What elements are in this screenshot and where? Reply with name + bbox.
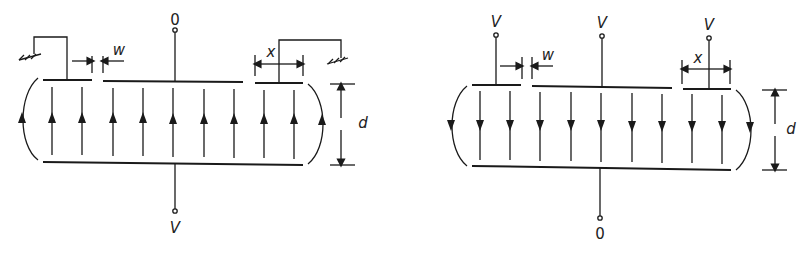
left-fringe-field-left	[23, 78, 38, 160]
right-separation-d-label: d	[786, 122, 796, 137]
right-bottom-terminal-label: 0	[595, 227, 605, 242]
left-guard-x-label: x	[267, 45, 276, 60]
left-top-terminal-label: 0	[170, 13, 180, 28]
right-gap-w-label: w	[542, 48, 554, 63]
ground-icon	[327, 57, 348, 64]
right-diagram	[447, 33, 787, 220]
right-fringe-field-left	[452, 86, 467, 166]
left-bottom-electrode	[43, 162, 303, 165]
left-diagram	[18, 28, 355, 213]
left-top-measuring-electrode	[103, 81, 243, 82]
right-guard-x-label: x	[694, 51, 703, 66]
right-terminal-left-label: V	[491, 15, 501, 30]
left-separation-d-label: d	[358, 116, 368, 131]
left-bottom-terminal-label: V	[170, 221, 180, 236]
right-terminal-center	[600, 34, 604, 38]
right-terminal-right	[707, 36, 711, 40]
left-ground-wire-left	[34, 37, 67, 80]
left-field-arrows	[18, 112, 326, 125]
right-bottom-terminal	[598, 216, 602, 220]
right-terminal-left	[494, 33, 498, 37]
ground-icon	[19, 54, 41, 60]
right-bottom-electrode	[472, 166, 731, 170]
right-terminal-right-label: V	[704, 18, 714, 33]
right-fringe-field-right	[736, 90, 751, 170]
left-gap-w-label: w	[113, 43, 125, 58]
right-terminal-center-label: V	[597, 16, 607, 31]
left-ground-wire-right	[279, 40, 341, 83]
electrode-diagram	[0, 0, 804, 255]
left-bottom-terminal	[173, 209, 177, 213]
